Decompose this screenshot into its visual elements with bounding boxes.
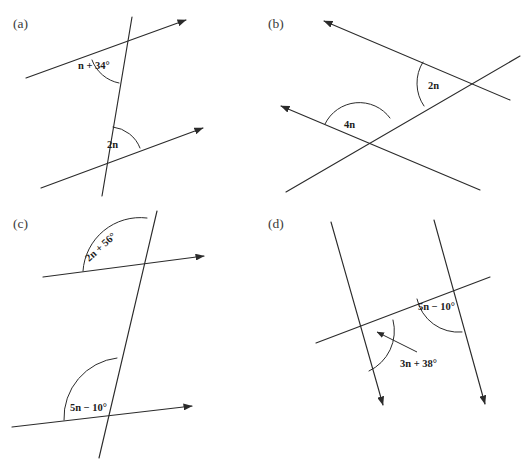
panel-d-left-parallel-line	[331, 222, 383, 405]
panel-b-upper-angle-label: 2n	[428, 80, 439, 91]
panel-b-lower-angle-label: 4n	[344, 119, 355, 130]
panel-d-right-parallel-line	[434, 220, 485, 404]
panel-a-lower-angle-label: 2n	[107, 139, 118, 150]
panel-d-transversal	[316, 277, 490, 343]
figure-root: (a) n + 34° 2n (b) 2n	[0, 0, 532, 469]
panel-d-left-angle-arc	[369, 320, 394, 371]
panel-c-transversal	[99, 211, 157, 458]
panel-c-label: (c)	[13, 216, 28, 231]
panel-d-left-angle-leader	[377, 332, 417, 352]
geometry-figure: (a) n + 34° 2n (b) 2n	[0, 0, 532, 469]
panel-c-upper-angle-arc	[83, 218, 147, 271]
panel-a-lower-parallel-line	[41, 128, 203, 188]
panel-b: (b) 2n 4n	[268, 16, 520, 192]
panel-d-label: (d)	[268, 216, 284, 231]
panel-a-transversal	[102, 17, 132, 196]
panel-a-upper-angle-label: n + 34°	[78, 60, 110, 71]
panel-c-upper-angle-label: 2n + 56°	[83, 231, 118, 264]
panel-c-upper-parallel-line	[43, 256, 204, 277]
panel-b-lower-angle-arc	[325, 102, 390, 124]
panel-d: (d) 5n − 10° 3n + 38°	[268, 216, 490, 405]
panel-c-lower-angle-label: 5n − 10°	[70, 402, 107, 413]
panel-b-label: (b)	[268, 16, 284, 31]
panel-d-right-angle-label: 5n − 10°	[418, 301, 455, 312]
panel-b-transversal	[286, 56, 520, 192]
panel-c: (c) 2n + 56° 5n − 10°	[12, 211, 204, 458]
panel-a: (a) n + 34° 2n	[13, 16, 203, 196]
panel-d-left-angle-label: 3n + 38°	[400, 358, 437, 369]
panel-a-label: (a)	[13, 16, 28, 31]
panel-b-upper-angle-arc	[417, 62, 424, 106]
